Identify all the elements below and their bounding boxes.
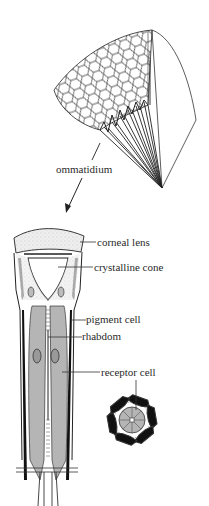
label-crystalline-cone: crystalline cone (94, 261, 163, 273)
label-ommatidium: ommatidium (56, 163, 112, 175)
ommatidium-section (14, 229, 84, 506)
corneal-lens (14, 229, 84, 253)
label-corneal-lens: corneal lens (97, 236, 150, 248)
eye-dome-outline (152, 30, 196, 188)
eye-facet-surface (54, 30, 152, 130)
compound-eye-diagram (0, 0, 209, 506)
rhabdom-center (130, 418, 134, 422)
ommatidium-pointer (65, 143, 100, 213)
label-receptor-cell: receptor cell (101, 366, 156, 378)
label-rhabdom: rhabdom (82, 330, 121, 342)
label-pigment-cell: pigment cell (86, 313, 141, 325)
ommatidium-cross-section (106, 393, 157, 446)
rhabdom (46, 310, 50, 456)
